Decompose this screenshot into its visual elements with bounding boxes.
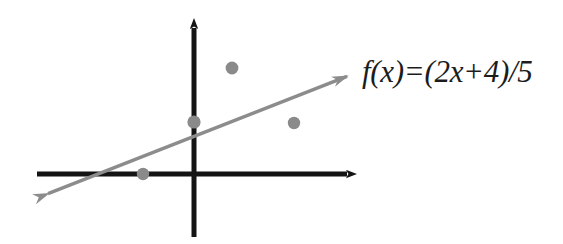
- function-equation-label: f(x)=(2x+4)/5: [362, 54, 532, 90]
- plot-canvas: [0, 0, 563, 244]
- data-point: [226, 62, 239, 75]
- function-graph-figure: f(x)=(2x+4)/5: [0, 0, 563, 244]
- data-point: [137, 168, 149, 180]
- data-point: [288, 117, 300, 129]
- data-point: [187, 115, 200, 128]
